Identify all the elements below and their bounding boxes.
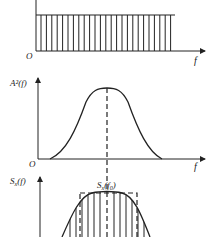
- middle-bell-curve: [50, 88, 162, 159]
- middle-origin-label: O: [29, 159, 36, 169]
- equivalent-bandwidth-dashed-rect: [80, 193, 137, 237]
- top-x-axis-label: f: [194, 55, 198, 66]
- top-hatch-lines: [41, 15, 171, 51]
- bottom-bell-curve: [62, 192, 150, 238]
- middle-x-axis-label: f: [194, 161, 198, 172]
- middle-y-axis-label: A²(f): [9, 78, 27, 88]
- bottom-panel: Sx(f) Sx(f0): [10, 176, 150, 237]
- bottom-y-axis-label: Sx(f): [10, 176, 26, 187]
- top-panel: O f: [26, 0, 205, 66]
- spectral-filtering-diagram: O f A²(f) O f Sx(f) Sx(f0): [0, 0, 213, 237]
- middle-panel: A²(f) O f: [9, 78, 205, 237]
- bottom-peak-label: Sx(f0): [97, 180, 116, 191]
- top-origin-label: O: [26, 51, 33, 61]
